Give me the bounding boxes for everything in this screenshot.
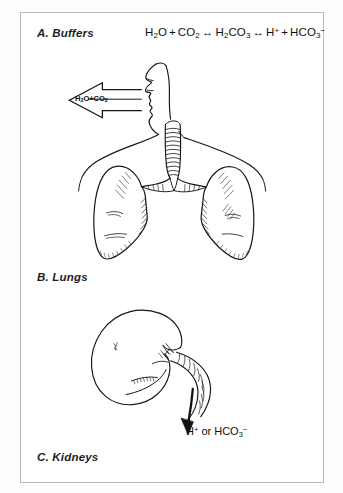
figure-border <box>20 12 324 483</box>
equation-bicarbonate-ion: HCO3− <box>290 26 325 38</box>
kidney-output-label: H+ or HCO3− <box>186 425 247 439</box>
equation-equilibrium-2: ↔ <box>250 26 266 38</box>
equation-h2o: H2O <box>145 26 167 38</box>
buffers-equation: H2O+CO2↔H2CO3↔H++HCO3− <box>145 26 325 40</box>
equation-plus-1: + <box>167 26 178 38</box>
panel-label-buffers: A. Buffers <box>37 27 94 39</box>
equation-co2: CO2 <box>178 26 200 38</box>
panel-label-kidneys: C. Kidneys <box>37 451 98 463</box>
equation-plus-2: + <box>279 26 290 38</box>
exhale-arrow-label: H2O+CO2 <box>75 94 108 103</box>
equation-hydrogen-ion: H+ <box>266 26 279 38</box>
equation-equilibrium-1: ↔ <box>200 26 216 38</box>
panel-label-lungs: B. Lungs <box>37 271 88 283</box>
figure-root: A. Buffers H2O+CO2↔H2CO3↔H++HCO3− H2O+CO… <box>0 0 343 493</box>
equation-h2co3: H2CO3 <box>215 26 250 38</box>
